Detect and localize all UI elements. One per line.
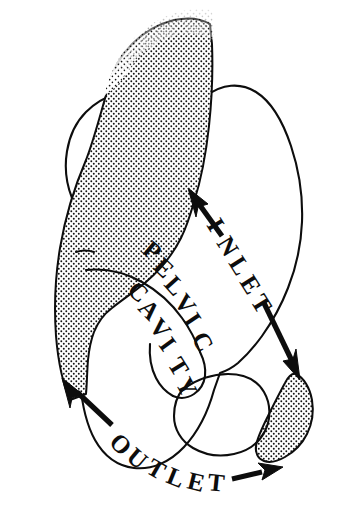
pelvis-diagram: I N L E T P E L V I C C A V I T Y O U [0, 0, 348, 528]
outlet-arrow-right [232, 463, 283, 480]
inlet-arrow-lower-right [264, 303, 300, 380]
pelvis-illustration: I N L E T P E L V I C C A V I T Y O U [0, 0, 348, 528]
coccyx-region [256, 374, 313, 462]
label-outlet-char-5: T [206, 468, 226, 497]
